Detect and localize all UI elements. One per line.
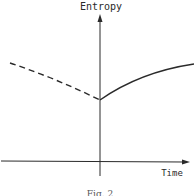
figure-caption: Fig. 2 <box>87 189 113 196</box>
entropy-diagram: Entropy Time Fig. 2 <box>0 0 194 196</box>
x-axis-label: Time <box>161 168 183 178</box>
y-axis-arrow-icon <box>98 14 103 22</box>
past-entropy-dashed-line <box>10 63 100 100</box>
future-entropy-solid-curve <box>100 64 194 100</box>
x-axis <box>1 161 184 162</box>
x-axis-arrow-icon <box>182 160 190 165</box>
y-axis-label: Entropy <box>80 1 122 12</box>
